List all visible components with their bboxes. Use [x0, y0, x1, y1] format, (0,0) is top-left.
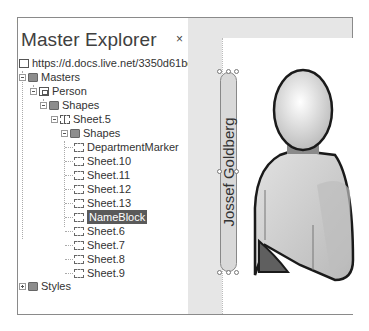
tree-node-child[interactable]: Sheet.13	[74, 196, 131, 210]
selection-handle[interactable]	[234, 270, 239, 275]
tree-node-child-selected[interactable]: NameBlock	[74, 210, 147, 224]
close-icon[interactable]: ×	[176, 32, 183, 46]
tree-node-child[interactable]: Sheet.6	[74, 224, 125, 238]
tree-connector	[65, 245, 73, 246]
folder-icon	[70, 129, 80, 138]
collapse-icon[interactable]	[40, 102, 47, 109]
selection-handle[interactable]	[226, 270, 231, 275]
tree-connector	[65, 217, 73, 218]
tree-node-label: Shapes	[62, 98, 99, 112]
tree-node-label: Sheet.6	[87, 224, 125, 238]
tree-node-sheet5[interactable]: Sheet.5	[51, 112, 111, 126]
tree-node-child[interactable]: Sheet.9	[74, 266, 125, 280]
collapse-icon[interactable]	[19, 74, 26, 81]
tree-connector	[65, 147, 73, 148]
tree-node-label: Person	[52, 84, 87, 98]
tree-node-label: Masters	[41, 70, 80, 84]
tree-connector	[22, 71, 23, 239]
tree-connector	[64, 141, 65, 227]
collapse-icon[interactable]	[51, 116, 58, 123]
master-explorer-panel: Master Explorer × https://d.docs.live.ne…	[18, 18, 188, 314]
folder-icon	[49, 101, 59, 110]
shape-icon	[74, 269, 84, 278]
selection-handle[interactable]	[234, 169, 239, 174]
person-icon[interactable]	[235, 60, 355, 282]
tree-connector	[65, 175, 73, 176]
selection-handle[interactable]	[234, 69, 239, 74]
tree-node-child[interactable]: Sheet.12	[74, 182, 131, 196]
shape-icon	[74, 185, 84, 194]
tree-node-child[interactable]: Sheet.7	[74, 238, 125, 252]
selection-handle[interactable]	[217, 169, 222, 174]
tree-node-label: Sheet.12	[87, 182, 131, 196]
tree-node-person[interactable]: Person	[30, 84, 87, 98]
expand-icon[interactable]	[19, 283, 26, 290]
tree-node-label: Sheet.5	[73, 112, 111, 126]
tree-node-child[interactable]: Sheet.10	[74, 154, 131, 168]
tree-connector	[65, 203, 73, 204]
tree-node-label: NameBlock	[87, 210, 147, 224]
selection-handle[interactable]	[217, 270, 222, 275]
tree-node-label: Sheet.10	[87, 154, 131, 168]
tree-node-label: Sheet.13	[87, 196, 131, 210]
folder-icon	[28, 282, 38, 291]
tree-node-label: Sheet.9	[87, 266, 125, 280]
shape-icon	[74, 171, 84, 180]
collapse-icon[interactable]	[61, 130, 68, 137]
tree-connector	[65, 259, 73, 260]
shape-icon	[74, 255, 84, 264]
shape-icon	[74, 199, 84, 208]
tree-connector	[65, 273, 73, 274]
tree-node-child[interactable]: DepartmentMarker	[74, 140, 179, 154]
shape-icon	[74, 157, 84, 166]
document-icon	[19, 59, 29, 68]
tree-node-masters[interactable]: Masters	[19, 70, 80, 84]
selection-handle[interactable]	[217, 69, 222, 74]
folder-icon	[28, 73, 38, 82]
tree-node-label: Styles	[41, 279, 71, 293]
tree-connector	[65, 231, 73, 232]
shape-icon	[74, 227, 84, 236]
group-shape-icon	[60, 115, 70, 124]
tree-node-label: DepartmentMarker	[87, 140, 179, 154]
tree-node-styles[interactable]: Styles	[19, 279, 71, 293]
tree-node-label: Sheet.7	[87, 238, 125, 252]
tree-node-child[interactable]: Sheet.8	[74, 252, 125, 266]
shape-icon	[74, 241, 84, 250]
tree-node-shapes[interactable]: Shapes	[40, 98, 99, 112]
selection-handle[interactable]	[226, 69, 231, 74]
tree-node-label: Sheet.8	[87, 252, 125, 266]
tree-connector	[65, 161, 73, 162]
collapse-icon[interactable]	[30, 88, 37, 95]
master-icon	[39, 87, 49, 96]
tree-node-label: Sheet.11	[87, 168, 130, 182]
tree-node-label: Shapes	[83, 126, 120, 140]
shape-icon	[74, 143, 84, 152]
shape-icon	[74, 213, 84, 222]
tree-node-shapes-inner[interactable]: Shapes	[61, 126, 120, 140]
tree-node-child[interactable]: Sheet.11	[74, 168, 130, 182]
panel-title: Master Explorer	[21, 29, 157, 51]
tree-connector	[65, 189, 73, 190]
